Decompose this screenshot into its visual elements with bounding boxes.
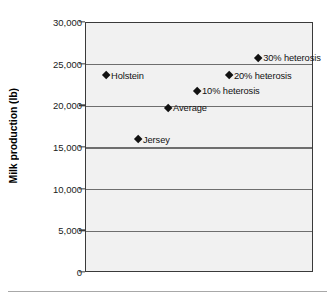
data-point[interactable]: Holstein xyxy=(106,71,144,81)
data-point-label: 10% heterosis xyxy=(202,86,260,96)
data-point-label: 20% heterosis xyxy=(234,71,292,81)
y-axis-tick-label: 30,000 xyxy=(20,17,82,28)
data-point[interactable]: 20% heterosis xyxy=(229,71,292,81)
y-axis-tick-label: 10,000 xyxy=(20,183,82,194)
y-axis-tick-label: 0 xyxy=(20,267,82,278)
gridline xyxy=(86,147,312,148)
data-point[interactable]: 30% heterosis xyxy=(258,53,321,63)
data-point-label: 30% heterosis xyxy=(263,53,321,63)
y-axis-tick-label: 15,000 xyxy=(20,142,82,153)
gridline xyxy=(86,64,312,65)
data-point-label: Jersey xyxy=(143,135,170,145)
data-point-label: Holstein xyxy=(111,71,144,81)
data-point[interactable]: Jersey xyxy=(138,135,170,145)
y-axis-tick-label: 25,000 xyxy=(20,58,82,69)
y-axis-tick-label: 20,000 xyxy=(20,100,82,111)
y-axis-tick-label: 5,000 xyxy=(20,225,82,236)
gridline xyxy=(86,189,312,190)
data-point[interactable]: Average xyxy=(168,103,207,113)
plot-area: 30% heterosisHolstein20% heterosis10% he… xyxy=(85,22,313,272)
data-point-label: Average xyxy=(173,103,207,113)
data-point[interactable]: 10% heterosis xyxy=(197,86,260,96)
chart-figure: Milk production (lb) 05,00010,00015,0002… xyxy=(0,0,335,297)
bottom-divider-rule xyxy=(8,291,327,292)
gridline xyxy=(86,231,312,232)
y-axis-title-label: Milk production (lb) xyxy=(7,88,19,183)
